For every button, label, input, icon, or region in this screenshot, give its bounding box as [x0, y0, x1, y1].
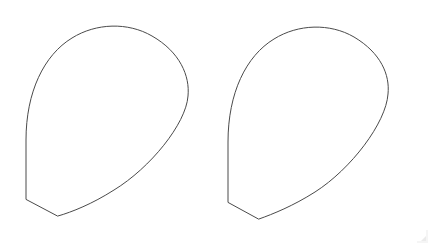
drawing-canvas [0, 0, 430, 245]
canvas-background [0, 0, 430, 245]
petal-figure [0, 0, 430, 245]
